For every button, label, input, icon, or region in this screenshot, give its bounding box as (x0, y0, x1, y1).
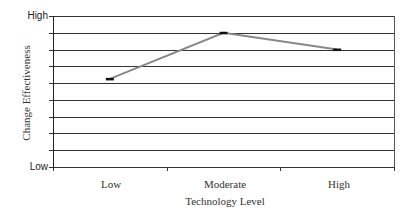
y-tick-label-high: High (8, 10, 48, 21)
y-axis-title: Change Effectiveness (20, 23, 32, 163)
x-axis-title: Technology Level (125, 195, 325, 207)
data-point-marker (333, 49, 341, 52)
data-point-marker (220, 32, 228, 35)
data-line (110, 33, 337, 79)
line-chart: High Low Low Moderate High Technology Le… (0, 0, 416, 215)
x-tick-label-moderate: Moderate (185, 178, 265, 190)
x-tick-label-high: High (299, 178, 379, 190)
data-point-marker (106, 78, 114, 81)
x-tick-label-low: Low (71, 178, 151, 190)
